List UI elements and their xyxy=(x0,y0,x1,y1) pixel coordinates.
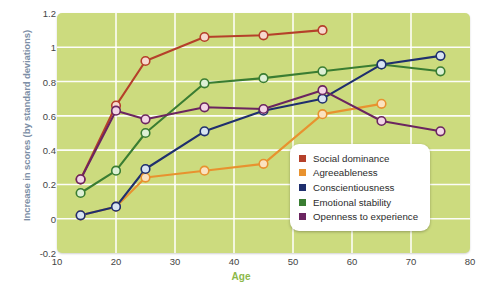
legend-color-swatch-icon xyxy=(299,169,306,176)
legend-item: Social dominance xyxy=(299,151,418,166)
x-axis-tick-label: 40 xyxy=(219,256,249,267)
legend-item-label: Agreeableness xyxy=(313,167,378,178)
line-chart: Increase in scores (by standard deviatio… xyxy=(0,0,482,294)
legend-color-swatch-icon xyxy=(299,184,306,191)
y-axis-tick-label: 1.2 xyxy=(28,8,56,19)
legend-item: Emotional stability xyxy=(299,195,418,210)
legend-color-swatch-icon xyxy=(299,213,306,220)
x-axis-tick-label: 50 xyxy=(278,256,308,267)
y-axis-tick-label: 0.4 xyxy=(28,145,56,156)
legend-item: Conscientiousness xyxy=(299,180,418,195)
y-axis-tick-label: 0.2 xyxy=(28,179,56,190)
x-axis-tick-label: 70 xyxy=(396,256,426,267)
y-axis-tick-label: 1 xyxy=(28,42,56,53)
y-axis-tick-label: 0 xyxy=(28,213,56,224)
y-axis-tick-label: 0.8 xyxy=(28,76,56,87)
x-axis-tick-label: 80 xyxy=(455,256,482,267)
x-axis-tick-label: 60 xyxy=(337,256,367,267)
legend-item: Openness to experience xyxy=(299,209,418,224)
legend-item-label: Emotional stability xyxy=(313,197,391,208)
legend-item: Agreeableness xyxy=(299,166,418,181)
y-axis-tick-label: 0.6 xyxy=(28,110,56,121)
legend-color-swatch-icon xyxy=(299,155,306,162)
y-axis-tick-labels: -0.200.20.40.60.811.2 xyxy=(14,0,56,294)
x-axis-tick-label: 30 xyxy=(160,256,190,267)
legend-item-label: Openness to experience xyxy=(313,211,418,222)
x-axis-tick-label: 10 xyxy=(42,256,72,267)
legend-color-swatch-icon xyxy=(299,199,306,206)
x-axis-tick-labels: 1020304050607080 xyxy=(0,256,482,272)
chart-legend: Social dominanceAgreeablenessConscientio… xyxy=(290,144,430,231)
x-axis-tick-label: 20 xyxy=(101,256,131,267)
legend-item-label: Social dominance xyxy=(313,153,389,164)
legend-item-label: Conscientiousness xyxy=(313,182,394,193)
x-axis-title: Age xyxy=(0,271,482,282)
